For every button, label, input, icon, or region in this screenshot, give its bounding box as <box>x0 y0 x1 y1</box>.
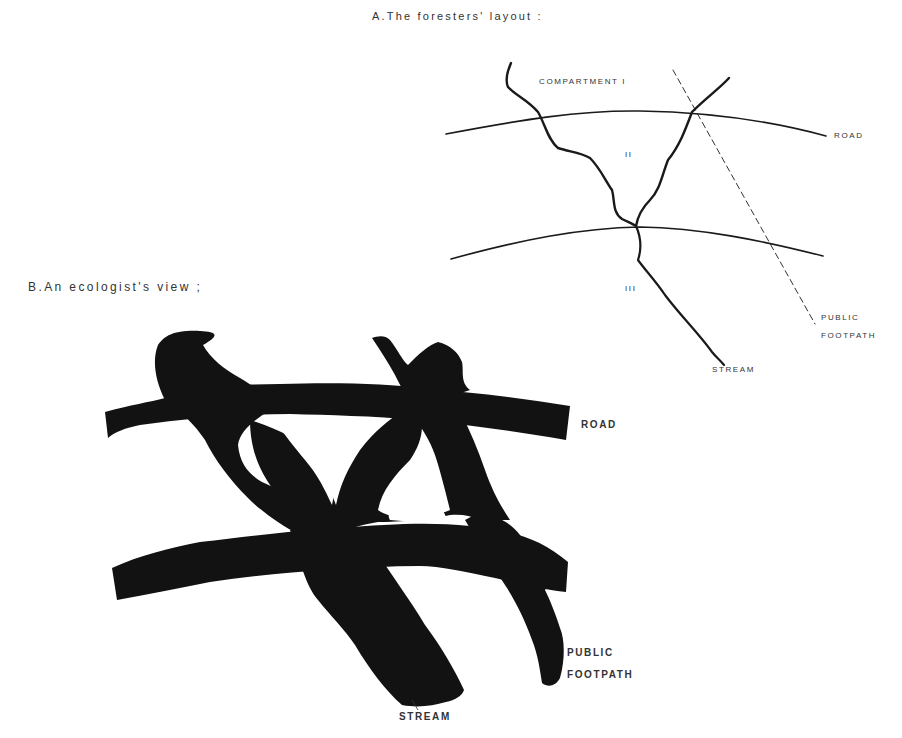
hole-lower-triangle <box>389 466 448 522</box>
label-road-a: ROAD <box>834 131 864 140</box>
road-line-lower <box>451 227 823 259</box>
label-compartment-3: III <box>625 284 636 293</box>
label-stream-a: STREAM <box>712 365 755 374</box>
label-footpath-b-line2: FOOTPATH <box>567 669 633 680</box>
label-footpath-b-line1: PUBLIC <box>567 647 614 658</box>
label-footpath-a-line1: PUBLIC <box>821 313 860 322</box>
road-line-upper <box>446 111 826 136</box>
footpath-band <box>465 512 564 686</box>
label-compartment-2: II <box>625 150 633 159</box>
footpath-dashed-line <box>673 70 815 324</box>
label-compartment-1: COMPARTMENT I <box>539 77 626 86</box>
label-footpath-a-line2: FOOTPATH <box>821 331 876 340</box>
stream-right-branch <box>636 78 729 226</box>
panel-b-silhouette <box>105 331 570 707</box>
stream-left-branch <box>507 63 636 226</box>
panel-a-diagram: COMPARTMENT I II III ROAD PUBLIC FOOTPAT… <box>0 0 902 738</box>
stream-main <box>636 226 724 365</box>
label-stream-b: STREAM <box>399 711 451 722</box>
label-road-b: ROAD <box>581 419 617 430</box>
